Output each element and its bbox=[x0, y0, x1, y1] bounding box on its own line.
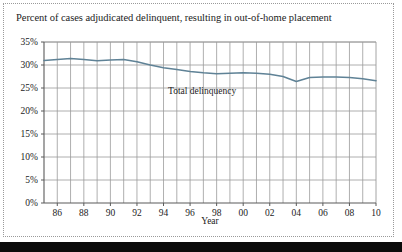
x-axis-tick-label: 92 bbox=[126, 208, 148, 218]
x-axis-tick-label: 94 bbox=[153, 208, 175, 218]
series-annotation-total-delinquency: Total delinquency bbox=[168, 86, 236, 96]
x-axis-tick-label: 88 bbox=[73, 208, 95, 218]
bottom-black-bar bbox=[0, 242, 402, 252]
x-axis-tick-label: 10 bbox=[365, 208, 387, 218]
x-axis-tick-label: 02 bbox=[259, 208, 281, 218]
x-axis-tick-label: 90 bbox=[99, 208, 121, 218]
y-axis-tick-label: 15% bbox=[8, 129, 38, 139]
x-axis-title: Year bbox=[180, 216, 240, 226]
x-axis-tick-label: 86 bbox=[46, 208, 68, 218]
y-axis-tick-label: 0% bbox=[8, 198, 38, 208]
y-axis-tick-label: 10% bbox=[8, 152, 38, 162]
y-axis-tick-label: 20% bbox=[8, 106, 38, 116]
y-axis-tick-label: 35% bbox=[8, 37, 38, 47]
chart-page: Percent of cases adjudicated delinquent,… bbox=[0, 0, 402, 252]
y-axis-tick-label: 5% bbox=[8, 175, 38, 185]
y-axis-tick-label: 25% bbox=[8, 83, 38, 93]
plot-area-wrapper: 0%5%10%15%20%25%30%35%868890929496980002… bbox=[0, 0, 402, 252]
x-axis-tick-label: 04 bbox=[285, 208, 307, 218]
x-axis-tick-label: 08 bbox=[338, 208, 360, 218]
y-axis-tick-label: 30% bbox=[8, 60, 38, 70]
x-axis-tick-label: 06 bbox=[312, 208, 334, 218]
